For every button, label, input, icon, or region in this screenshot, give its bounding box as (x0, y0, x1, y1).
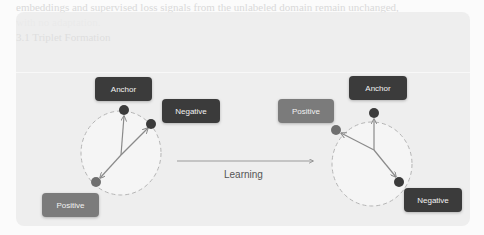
after-negative-dot (394, 177, 404, 187)
learning-label: Learning (224, 169, 263, 180)
after-positive-dot (331, 125, 341, 135)
before-negative-box: Negative (162, 99, 220, 123)
before-anchor-dot (119, 105, 129, 115)
before-positive-box: Positive (42, 193, 99, 217)
after-anchor-box: Anchor (349, 76, 407, 100)
after-anchor-dot (369, 108, 379, 118)
after-positive-box: Positive (278, 99, 334, 123)
before-negative-dot (146, 119, 156, 129)
before-positive-dot (91, 177, 101, 187)
before-anchor-box: Anchor (95, 77, 152, 101)
after-negative-box: Negative (404, 188, 462, 212)
